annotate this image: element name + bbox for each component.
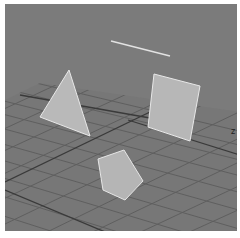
z-axis-label: z [231,128,235,136]
line-segment[interactable] [111,41,170,56]
3d-viewport[interactable]: z [5,4,237,231]
scene-canvas[interactable] [5,4,237,231]
